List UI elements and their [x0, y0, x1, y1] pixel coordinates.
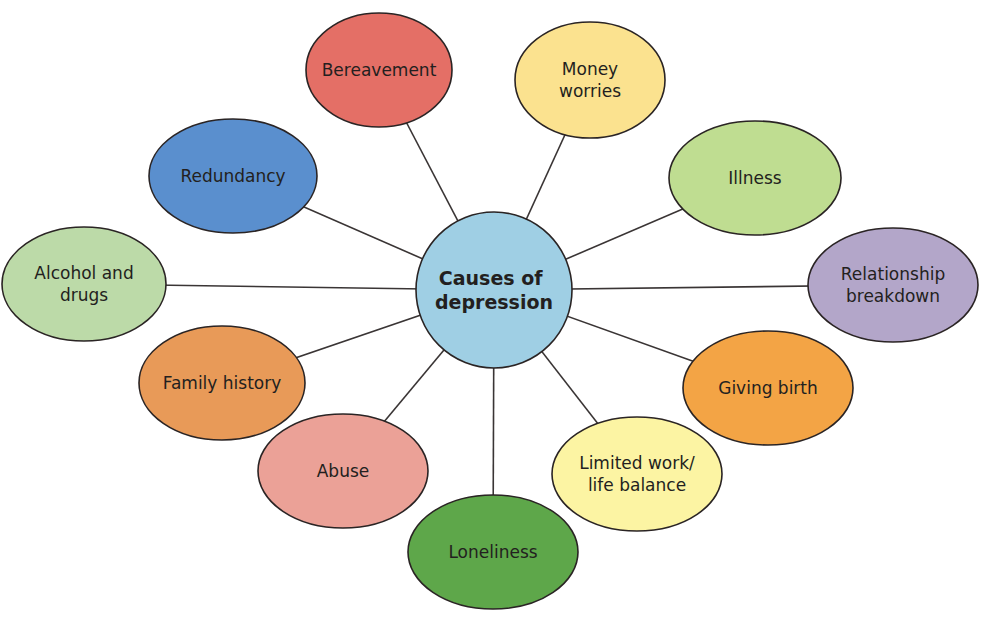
node-limited-work-life-balance: Limited work/life balance — [552, 417, 722, 531]
node-label-line: Giving birth — [718, 378, 818, 398]
node-label-line: Limited work/ — [579, 453, 695, 473]
node-label-giving-birth: Giving birth — [718, 378, 818, 398]
node-redundancy: Redundancy — [149, 119, 317, 233]
node-alcohol-and-drugs: Alcohol anddrugs — [2, 227, 166, 341]
node-label-line: Redundancy — [180, 166, 285, 186]
node-label-line: Bereavement — [322, 60, 437, 80]
node-label-line: Abuse — [317, 461, 370, 481]
center-label-line-1: Causes of — [439, 267, 543, 289]
node-bereavement: Bereavement — [306, 13, 452, 127]
node-label-bereavement: Bereavement — [322, 60, 437, 80]
node-label-line: Family history — [163, 373, 282, 393]
node-abuse: Abuse — [258, 414, 428, 528]
center-circle-shape — [416, 212, 572, 368]
center-node: Causes of depression — [416, 212, 572, 368]
node-shape-alcohol-and-drugs — [2, 227, 166, 341]
node-relationship-breakdown: Relationshipbreakdown — [808, 228, 978, 342]
mind-map-diagram: BereavementMoneyworriesRedundancyIllness… — [0, 0, 987, 623]
node-label-line: Illness — [728, 168, 782, 188]
node-label-loneliness: Loneliness — [448, 542, 537, 562]
node-label-redundancy: Redundancy — [180, 166, 285, 186]
node-label-line: Relationship — [841, 264, 945, 284]
node-label-line: worries — [559, 81, 621, 101]
node-shape-relationship-breakdown — [808, 228, 978, 342]
diagram-canvas: BereavementMoneyworriesRedundancyIllness… — [0, 0, 987, 623]
center-label-line-2: depression — [435, 291, 553, 313]
node-money-worries: Moneyworries — [515, 22, 665, 138]
node-giving-birth: Giving birth — [683, 331, 853, 445]
node-shape-limited-work-life-balance — [552, 417, 722, 531]
node-label-line: Alcohol and — [34, 263, 133, 283]
node-shape-money-worries — [515, 22, 665, 138]
node-label-line: life balance — [588, 475, 686, 495]
node-family-history: Family history — [139, 326, 305, 440]
node-label-line: Loneliness — [448, 542, 537, 562]
node-label-line: drugs — [60, 285, 108, 305]
node-label-family-history: Family history — [163, 373, 282, 393]
node-illness: Illness — [669, 121, 841, 235]
node-label-line: breakdown — [846, 286, 940, 306]
node-label-illness: Illness — [728, 168, 782, 188]
node-label-abuse: Abuse — [317, 461, 370, 481]
node-loneliness: Loneliness — [408, 495, 578, 609]
node-label-line: Money — [562, 59, 618, 79]
